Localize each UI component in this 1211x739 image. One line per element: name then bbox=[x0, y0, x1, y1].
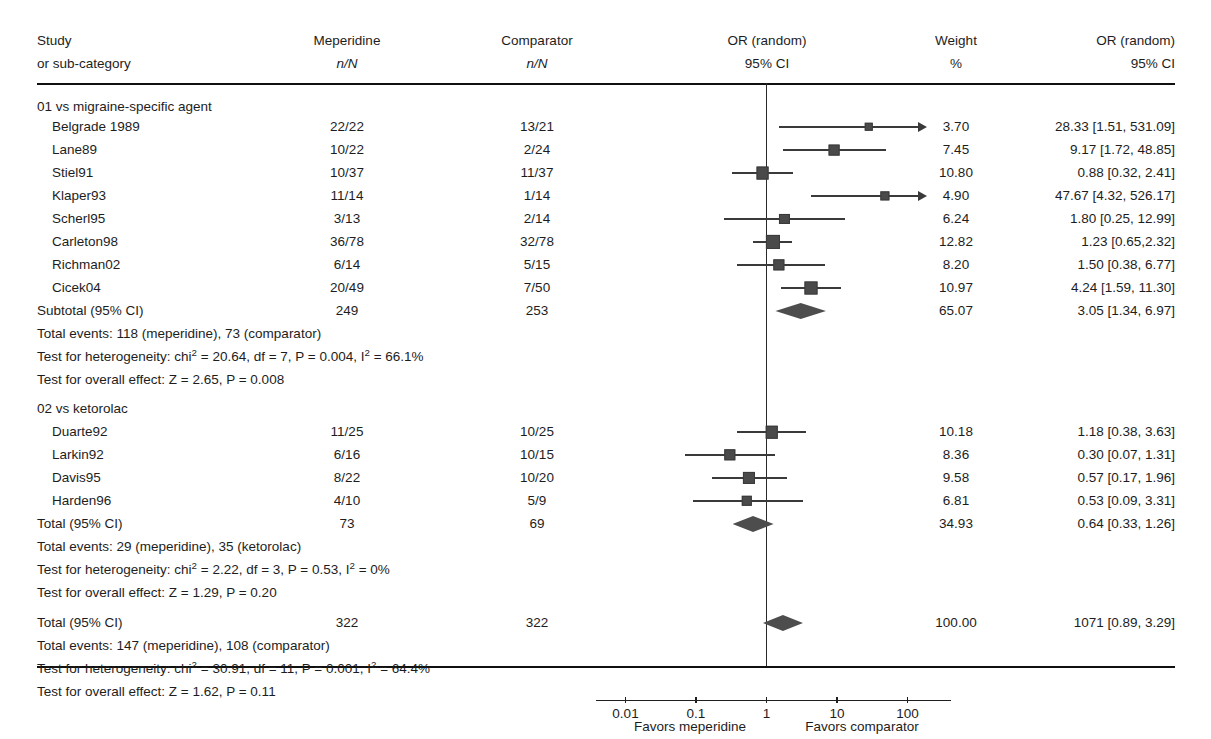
null-effect-line bbox=[766, 83, 767, 666]
study-treatment-events: 10/22 bbox=[330, 142, 364, 158]
confidence-interval-line bbox=[811, 195, 918, 196]
study-weight: 3.70 bbox=[943, 119, 969, 135]
header-treatment-line2: n/N bbox=[336, 56, 357, 72]
confidence-interval-line bbox=[693, 500, 803, 501]
effect-size-marker bbox=[773, 259, 784, 270]
study-treatment-events: 3/13 bbox=[334, 211, 360, 227]
effect-size-marker bbox=[779, 214, 789, 224]
header-plot-line2: 95% CI bbox=[745, 56, 789, 72]
study-weight: 6.24 bbox=[943, 211, 969, 227]
study-name: Lane89 bbox=[52, 142, 97, 158]
subtotal-heterogeneity: Test for heterogeneity: chi2 = 2.22, df … bbox=[37, 562, 390, 578]
study-weight: 10.18 bbox=[939, 424, 973, 440]
confidence-interval-line bbox=[724, 218, 845, 219]
study-name: Harden96 bbox=[52, 493, 111, 509]
effect-size-marker bbox=[766, 235, 780, 249]
study-weight: 7.45 bbox=[943, 142, 969, 158]
header-weight-line1: Weight bbox=[935, 33, 977, 49]
effect-size-marker bbox=[742, 496, 752, 506]
subtotal-treatment-total: 249 bbox=[336, 303, 359, 319]
summary-diamond bbox=[733, 516, 774, 532]
grand-total-events: Total events: 147 (meperidine), 108 (com… bbox=[37, 638, 330, 654]
confidence-interval-line bbox=[685, 454, 775, 455]
study-name: Larkin92 bbox=[52, 447, 104, 463]
group-heading-1: 01 vs migraine-specific agent bbox=[37, 99, 212, 115]
favors-left-label: Favors meperidine bbox=[634, 719, 746, 734]
study-comparator-events: 5/15 bbox=[524, 257, 550, 273]
grand-total-weight: 100.00 bbox=[935, 615, 976, 631]
x-axis-tick bbox=[836, 697, 837, 703]
effect-size-marker bbox=[804, 282, 817, 295]
study-comparator-events: 7/50 bbox=[524, 280, 550, 296]
study-weight: 12.82 bbox=[939, 234, 973, 250]
subtotal-label: Total (95% CI) bbox=[37, 516, 123, 532]
subtotal-treatment-total: 73 bbox=[339, 516, 354, 532]
grand-total-heterogeneity: Test for heterogeneity: chi2 = 30.91, df… bbox=[37, 661, 430, 677]
effect-size-marker bbox=[743, 472, 755, 484]
study-treatment-events: 10/37 bbox=[330, 165, 364, 181]
grand-total-treatment-total: 322 bbox=[336, 615, 359, 631]
subtotal-overall-effect: Test for overall effect: Z = 1.29, P = 0… bbox=[37, 585, 277, 601]
study-treatment-events: 8/22 bbox=[334, 470, 360, 486]
subtotal-heterogeneity: Test for heterogeneity: chi2 = 20.64, df… bbox=[37, 349, 424, 365]
subtotal-total-events: Total events: 29 (meperidine), 35 (ketor… bbox=[37, 539, 301, 555]
grand-total-label: Total (95% CI) bbox=[37, 615, 123, 631]
study-or-ci: 1.50 [0.38, 6.77] bbox=[1077, 257, 1175, 273]
study-name: Cicek04 bbox=[52, 280, 101, 296]
study-treatment-events: 6/14 bbox=[334, 257, 360, 273]
study-or-ci: 9.17 [1.72, 48.85] bbox=[1070, 142, 1175, 158]
confidence-interval-line bbox=[753, 241, 792, 242]
study-or-ci: 28.33 [1.51, 531.09] bbox=[1055, 119, 1175, 135]
study-or-ci: 1.18 [0.38, 3.63] bbox=[1077, 424, 1175, 440]
header-study-line2: or sub-category bbox=[37, 56, 131, 72]
group-heading-2: 02 vs ketorolac bbox=[37, 401, 128, 417]
study-name: Davis95 bbox=[52, 470, 101, 486]
subtotal-or-ci: 3.05 [1.34, 6.97] bbox=[1077, 303, 1175, 319]
effect-size-marker bbox=[829, 145, 840, 156]
x-axis-line bbox=[596, 700, 951, 701]
study-weight: 10.80 bbox=[939, 165, 973, 181]
header-or-line1: OR (random) bbox=[1096, 33, 1175, 49]
study-or-ci: 1.23 [0.65,2.32] bbox=[1081, 234, 1175, 250]
study-weight: 10.97 bbox=[939, 280, 973, 296]
study-treatment-events: 11/14 bbox=[331, 188, 364, 204]
confidence-interval-line bbox=[737, 264, 825, 265]
study-or-ci: 0.88 [0.32, 2.41] bbox=[1077, 165, 1175, 181]
x-axis-tick bbox=[907, 697, 908, 703]
header-treatment-line1: Meperidine bbox=[314, 33, 381, 49]
study-name: Belgrade 1989 bbox=[52, 119, 140, 135]
study-comparator-events: 13/21 bbox=[520, 119, 554, 135]
header-divider-rule bbox=[37, 83, 1175, 85]
header-comparator-line1: Comparator bbox=[501, 33, 572, 49]
confidence-interval-line bbox=[781, 287, 841, 288]
study-or-ci: 0.57 [0.17, 1.96] bbox=[1077, 470, 1175, 486]
study-comparator-events: 2/24 bbox=[524, 142, 550, 158]
ci-arrow-icon bbox=[918, 122, 927, 132]
grand-total-or-ci: 1071 [0.89, 3.29] bbox=[1074, 615, 1175, 631]
confidence-interval-line bbox=[737, 431, 806, 432]
study-comparator-events: 32/78 bbox=[520, 234, 554, 250]
study-name: Carleton98 bbox=[52, 234, 118, 250]
study-or-ci: 4.24 [1.59, 11.30] bbox=[1071, 280, 1175, 296]
subtotal-label: Subtotal (95% CI) bbox=[37, 303, 144, 319]
study-weight: 8.36 bbox=[943, 447, 969, 463]
study-or-ci: 47.67 [4.32, 526.17] bbox=[1055, 188, 1175, 204]
study-name: Richman02 bbox=[52, 257, 120, 273]
summary-diamond bbox=[763, 615, 803, 631]
subtotal-total-events: Total events: 118 (meperidine), 73 (comp… bbox=[37, 326, 321, 342]
header-or-line2: 95% CI bbox=[1131, 56, 1175, 72]
study-comparator-events: 2/14 bbox=[524, 211, 550, 227]
x-axis-tick bbox=[766, 697, 767, 703]
study-name: Duarte92 bbox=[52, 424, 108, 440]
forest-plot-figure: Study or sub-category Meperidine n/N Com… bbox=[0, 0, 1211, 739]
subtotal-overall-effect: Test for overall effect: Z = 2.65, P = 0… bbox=[37, 372, 284, 388]
study-treatment-events: 4/10 bbox=[334, 493, 360, 509]
confidence-interval-line bbox=[732, 172, 794, 173]
study-weight: 9.58 bbox=[943, 470, 969, 486]
study-comparator-events: 10/15 bbox=[520, 447, 554, 463]
study-treatment-events: 6/16 bbox=[334, 447, 360, 463]
study-weight: 8.20 bbox=[943, 257, 969, 273]
study-name: Stiel91 bbox=[52, 165, 93, 181]
confidence-interval-line bbox=[779, 126, 918, 127]
study-weight: 6.81 bbox=[943, 493, 969, 509]
